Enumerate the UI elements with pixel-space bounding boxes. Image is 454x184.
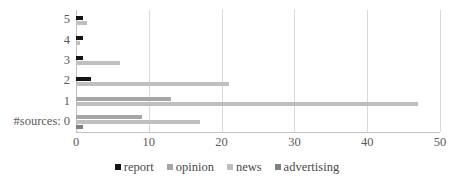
bar-group-0: [76, 112, 440, 132]
y-axis-title: #sources:: [14, 114, 61, 128]
x-axis-line: [76, 132, 440, 133]
bar-news-5: [76, 21, 87, 25]
legend-label-advertising: advertising: [284, 161, 340, 174]
legend-item-report[interactable]: report: [115, 161, 154, 174]
x-axis-tick-labels: 01020304050: [0, 135, 454, 151]
bar-group-4: [76, 30, 440, 50]
bar-news-0: [76, 120, 200, 124]
bar-report-3: [76, 56, 83, 60]
y-tick-1: 1: [64, 95, 70, 107]
y-tick-4: 4: [64, 34, 70, 46]
x-tick-40: 40: [361, 135, 374, 149]
bar-group-1: [76, 91, 440, 111]
y-axis-labels: 54321#sources:0: [0, 10, 74, 132]
bar-report-5: [76, 16, 83, 20]
y-tick-value: 0: [64, 114, 70, 128]
x-tick-10: 10: [143, 135, 156, 149]
legend-label-news: news: [236, 161, 262, 174]
y-tick-value: 5: [64, 12, 70, 26]
y-tick-5: 5: [64, 13, 70, 25]
y-tick-value: 4: [64, 33, 70, 47]
x-tick-20: 20: [215, 135, 228, 149]
x-tick-30: 30: [288, 135, 301, 149]
y-tick-2: 2: [64, 74, 70, 86]
bar-opinion-1: [76, 97, 171, 101]
x-tick-0: 0: [73, 135, 79, 149]
bar-group-3: [76, 51, 440, 71]
y-tick-value: 2: [64, 73, 70, 87]
gridline-50: [440, 10, 441, 132]
y-tick-3: 3: [64, 54, 70, 66]
legend-label-opinion: opinion: [176, 161, 214, 174]
bar-news-4: [76, 41, 80, 45]
legend-swatch-news-icon: [227, 164, 233, 170]
bar-news-1: [76, 102, 418, 106]
bar-advertising-0: [76, 125, 83, 129]
y-tick-0: #sources:0: [14, 115, 70, 127]
legend-swatch-advertising-icon: [275, 164, 281, 170]
y-tick-value: 3: [64, 53, 70, 67]
bar-opinion-0: [76, 115, 142, 119]
y-tick-value: 1: [64, 94, 70, 108]
bar-group-2: [76, 71, 440, 91]
legend-label-report: report: [124, 161, 154, 174]
legend-item-advertising[interactable]: advertising: [275, 161, 340, 174]
plot-area: [76, 10, 440, 132]
bar-group-5: [76, 10, 440, 30]
x-tick-50: 50: [434, 135, 447, 149]
legend-item-opinion[interactable]: opinion: [167, 161, 214, 174]
legend-swatch-report-icon: [115, 164, 121, 170]
bar-news-2: [76, 82, 229, 86]
legend-swatch-opinion-icon: [167, 164, 173, 170]
bar-news-3: [76, 61, 120, 65]
bar-report-4: [76, 36, 83, 40]
legend-item-news[interactable]: news: [227, 161, 262, 174]
bar-report-2: [76, 77, 91, 81]
chart-legend: reportopinionnewsadvertising: [0, 158, 454, 176]
bar-chart: 54321#sources:0 01020304050 reportopinio…: [0, 0, 454, 184]
